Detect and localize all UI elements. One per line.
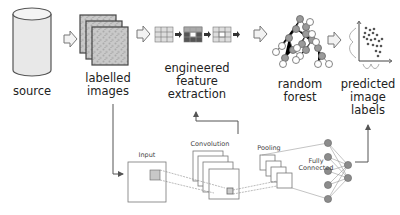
label-cnn-pooling: Pooling — [252, 145, 286, 152]
image-stack-icon — [80, 15, 128, 65]
label-labelled-images: labelled images — [82, 72, 134, 98]
block-arrow-icon — [328, 32, 341, 48]
cnn-convolution-layer — [193, 151, 239, 199]
label-cnn-convolution: Convolution — [188, 141, 232, 148]
label-line: images — [82, 85, 134, 98]
tree-graph-icon — [273, 16, 333, 68]
connector-line — [355, 125, 368, 162]
block-arrow-icon — [64, 31, 77, 47]
block-arrow-icon — [254, 26, 267, 42]
connector-line — [196, 112, 238, 134]
cnn-pooling-layer — [260, 155, 292, 188]
label-predicted-labels: predicted image labels — [336, 78, 400, 117]
block-arrow-icon — [137, 26, 150, 42]
connector-line — [113, 104, 123, 174]
label-cnn-fully-connected: Fully Connected — [296, 158, 336, 172]
label-line: forest — [268, 91, 332, 104]
label-cnn-input: Input — [134, 152, 160, 159]
label-line: extraction — [155, 88, 239, 101]
label-line: Connected — [296, 165, 336, 172]
label-random-forest: random forest — [268, 78, 332, 104]
database-cylinder-icon — [13, 8, 51, 76]
convolution-steps-icon — [155, 27, 240, 42]
label-feature-extraction: engineered feature extraction — [155, 62, 239, 101]
cnn-input-layer — [128, 162, 166, 202]
scatter-plot-icon — [350, 21, 392, 69]
label-source: source — [2, 85, 62, 98]
label-line: labels — [336, 104, 400, 117]
